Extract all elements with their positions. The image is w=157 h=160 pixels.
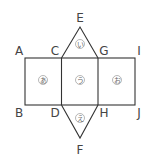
face-label-a: あ: [40, 77, 47, 85]
face-label-e: え: [77, 115, 84, 123]
face-label-u: う: [77, 77, 84, 85]
vertex-label-I: I: [137, 44, 141, 58]
vertex-label-E: E: [76, 11, 84, 25]
face-label-i: い: [77, 41, 84, 49]
vertex-label-F: F: [77, 143, 84, 157]
vertex-label-G: G: [99, 44, 108, 58]
net-diagram: あ い う え お E A C G I B D H J F: [0, 0, 157, 160]
vertex-label-C: C: [51, 44, 59, 58]
vertex-label-H: H: [99, 106, 108, 120]
vertex-label-J: J: [136, 106, 141, 120]
vertex-label-A: A: [15, 44, 24, 58]
face-label-o: お: [114, 77, 121, 85]
vertex-label-D: D: [50, 106, 59, 120]
vertex-label-B: B: [15, 106, 23, 120]
